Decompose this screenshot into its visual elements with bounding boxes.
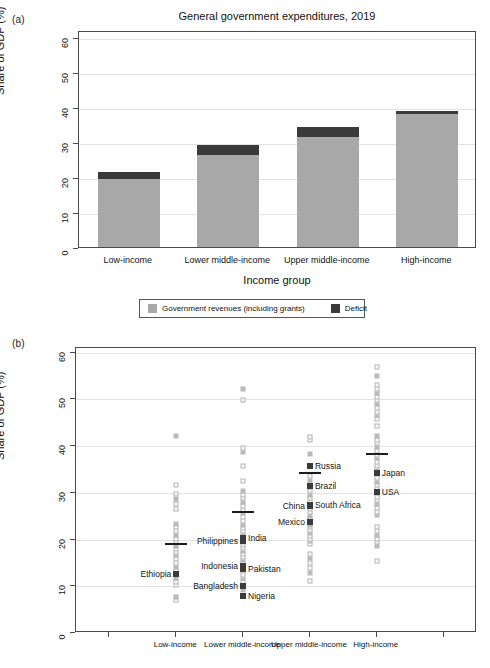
panel-a-legend: Government revenues (including grants) D… bbox=[139, 299, 365, 318]
data-point-label-china: China bbox=[283, 501, 305, 511]
data-point-label-philippines: Philippines bbox=[197, 536, 238, 546]
panel-a-plot-area bbox=[78, 31, 476, 248]
data-point-label-brazil: Brazil bbox=[315, 481, 336, 491]
legend-swatch-revenues-icon bbox=[148, 304, 157, 313]
data-point-label-india: India bbox=[248, 533, 266, 543]
y-tick-label: 20 bbox=[60, 178, 70, 188]
data-point-label-indonesia: Indonesia bbox=[201, 561, 238, 571]
panel-b-y-axis-label: Share of GDP (%) bbox=[0, 372, 6, 460]
y-tick-label: 30 bbox=[60, 143, 70, 153]
data-point-highlighted-russia bbox=[307, 463, 313, 469]
data-point bbox=[307, 565, 312, 570]
data-point bbox=[307, 474, 312, 479]
panel-a-title: General government expenditures, 2019 bbox=[78, 10, 476, 22]
data-point-label-nigeria: Nigeria bbox=[248, 591, 275, 601]
x-tick-mark bbox=[376, 632, 377, 637]
x-tick-mark bbox=[242, 632, 243, 637]
y-tick-mark bbox=[70, 445, 75, 446]
bar-segment-deficit bbox=[197, 145, 259, 156]
gridline bbox=[76, 493, 475, 494]
legend-swatch-deficit-icon bbox=[331, 304, 340, 313]
data-point-label-ethiopia: Ethiopia bbox=[141, 569, 172, 579]
panel-b-plot-area: EthiopiaNigeriaBangladeshPakistanIndones… bbox=[75, 347, 476, 632]
bar-segment-revenues bbox=[197, 155, 259, 247]
y-tick-mark bbox=[70, 585, 75, 586]
data-point-highlighted-indonesia bbox=[240, 563, 246, 569]
group-mean-line bbox=[232, 511, 254, 513]
data-point bbox=[374, 433, 379, 438]
y-tick-mark bbox=[70, 352, 75, 353]
data-point bbox=[174, 433, 179, 438]
bar-segment-revenues bbox=[98, 179, 160, 247]
data-point bbox=[307, 556, 312, 561]
data-point bbox=[241, 463, 246, 468]
gridline bbox=[79, 74, 475, 75]
panel-a-tag: (a) bbox=[12, 14, 25, 25]
bar-segment-revenues bbox=[297, 137, 359, 247]
bar-high-income bbox=[396, 111, 458, 247]
data-point bbox=[374, 423, 379, 428]
data-point bbox=[374, 525, 379, 530]
data-point bbox=[374, 383, 379, 388]
bar-segment-deficit bbox=[297, 127, 359, 137]
x-tick-label: High-income bbox=[353, 640, 398, 649]
x-tick-mark bbox=[108, 632, 109, 637]
data-point bbox=[174, 502, 179, 507]
y-tick-mark bbox=[70, 492, 75, 493]
y-tick-mark bbox=[70, 539, 75, 540]
gridline bbox=[76, 446, 475, 447]
data-point-label-pakistan: Pakistan bbox=[248, 564, 281, 574]
y-tick-mark bbox=[70, 398, 75, 399]
data-point-highlighted-japan bbox=[374, 470, 380, 476]
data-point-label-japan: Japan bbox=[382, 468, 405, 478]
gridline bbox=[76, 353, 475, 354]
data-point bbox=[174, 497, 179, 502]
y-tick-label: 60 bbox=[57, 352, 67, 362]
x-tick-label: Lower middle-income bbox=[184, 255, 270, 265]
gridline bbox=[79, 39, 475, 40]
data-point bbox=[374, 364, 379, 369]
data-point bbox=[174, 594, 179, 599]
y-tick-mark bbox=[73, 178, 78, 179]
gridline bbox=[79, 109, 475, 110]
legend-label-deficit: Deficit bbox=[345, 304, 367, 313]
data-point-label-mexico: Mexico bbox=[278, 517, 305, 527]
data-point-label-usa: USA bbox=[382, 487, 399, 497]
data-point-highlighted-bangladesh bbox=[240, 583, 246, 589]
data-point bbox=[307, 560, 312, 565]
data-point bbox=[174, 521, 179, 526]
x-tick-label: High-income bbox=[401, 255, 452, 265]
y-tick-label: 20 bbox=[57, 539, 67, 549]
data-point-label-bangladesh: Bangladesh bbox=[193, 581, 238, 591]
bar-upper-middle-income bbox=[297, 127, 359, 247]
y-tick-label: 40 bbox=[60, 108, 70, 118]
data-point-highlighted-mexico bbox=[307, 519, 313, 525]
data-point bbox=[307, 434, 312, 439]
y-tick-label: 30 bbox=[57, 492, 67, 502]
group-mean-line bbox=[366, 453, 388, 455]
data-point bbox=[307, 451, 312, 456]
panel-a-y-axis-label: Share of GDP (%) bbox=[0, 7, 6, 95]
data-point-label-south-africa: South Africa bbox=[315, 500, 361, 510]
x-tick-label: Lower middle-income bbox=[204, 640, 280, 649]
x-tick-label: Upper middle-income bbox=[271, 640, 347, 649]
data-point-highlighted-india bbox=[240, 535, 246, 541]
y-tick-label: 10 bbox=[60, 213, 70, 223]
data-point bbox=[374, 559, 379, 564]
data-point bbox=[241, 386, 246, 391]
y-tick-label: 40 bbox=[57, 445, 67, 455]
data-point bbox=[307, 570, 312, 575]
y-tick-mark bbox=[70, 632, 75, 633]
gridline bbox=[76, 540, 475, 541]
data-point bbox=[307, 579, 312, 584]
panel-a-x-axis-label: Income group bbox=[78, 274, 476, 286]
data-point bbox=[241, 488, 246, 493]
data-point-highlighted-ethiopia bbox=[173, 571, 179, 577]
panel-a: (a) General government expenditures, 201… bbox=[0, 0, 490, 330]
data-point-highlighted-usa bbox=[374, 489, 380, 495]
y-tick-label: 60 bbox=[60, 38, 70, 48]
bar-segment-deficit bbox=[98, 172, 160, 180]
bar-segment-revenues bbox=[396, 114, 458, 247]
y-tick-mark bbox=[73, 38, 78, 39]
y-tick-mark bbox=[73, 143, 78, 144]
